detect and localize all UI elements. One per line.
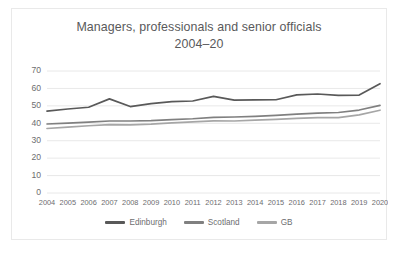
y-axis-tick-label: 40 xyxy=(31,118,41,128)
x-axis-tick-label: 2009 xyxy=(143,198,159,207)
x-axis-tick-label: 2006 xyxy=(80,198,96,207)
legend-swatch-icon xyxy=(257,221,277,223)
y-axis-tick-label: 50 xyxy=(31,100,41,110)
legend-item-gb[interactable]: GB xyxy=(257,218,293,227)
legend-swatch-icon xyxy=(105,221,125,223)
legend-label: Edinburgh xyxy=(129,218,166,227)
gridlines-group xyxy=(47,71,380,193)
x-axis-tick-label: 2016 xyxy=(289,198,305,207)
x-axis-tick-label: 2005 xyxy=(60,198,76,207)
x-axis-tick-labels: 2004200520062007200820092010201120122013… xyxy=(39,198,388,207)
plot-area: 010203040506070 200420052006200720082009… xyxy=(12,9,388,241)
legend-label: GB xyxy=(281,218,293,227)
x-axis-tick-label: 2010 xyxy=(164,198,180,207)
y-axis-tick-labels: 010203040506070 xyxy=(31,65,41,197)
x-axis-tick-label: 2012 xyxy=(205,198,221,207)
y-axis-tick-label: 0 xyxy=(36,187,41,197)
x-axis-tick-label: 2017 xyxy=(309,198,325,207)
legend-label: Scotland xyxy=(208,218,240,227)
y-axis-tick-label: 70 xyxy=(31,65,41,75)
x-axis-tick-label: 2007 xyxy=(101,198,117,207)
chart-legend: EdinburghScotlandGB xyxy=(12,218,386,227)
y-axis-tick-label: 20 xyxy=(31,152,41,162)
x-axis-tick-label: 2013 xyxy=(226,198,242,207)
legend-item-edinburgh[interactable]: Edinburgh xyxy=(105,218,166,227)
series-line-edinburgh xyxy=(47,84,380,111)
legend-item-scotland[interactable]: Scotland xyxy=(184,218,240,227)
x-axis-tick-label: 2015 xyxy=(268,198,284,207)
x-axis-tick-label: 2014 xyxy=(247,198,263,207)
y-axis-tick-label: 10 xyxy=(31,170,41,180)
y-axis-tick-label: 60 xyxy=(31,83,41,93)
legend-swatch-icon xyxy=(184,221,204,223)
x-axis-tick-label: 2019 xyxy=(351,198,367,207)
x-axis-tick-label: 2008 xyxy=(122,198,138,207)
x-axis-tick-label: 2004 xyxy=(39,198,55,207)
x-axis-tick-label: 2011 xyxy=(185,198,201,207)
line-chart-svg: 010203040506070 200420052006200720082009… xyxy=(12,9,388,241)
x-axis-tick-label: 2020 xyxy=(372,198,388,207)
chart-card: Managers, professionals and senior offic… xyxy=(11,8,387,240)
y-axis-tick-label: 30 xyxy=(31,135,41,145)
x-axis-tick-label: 2018 xyxy=(330,198,346,207)
